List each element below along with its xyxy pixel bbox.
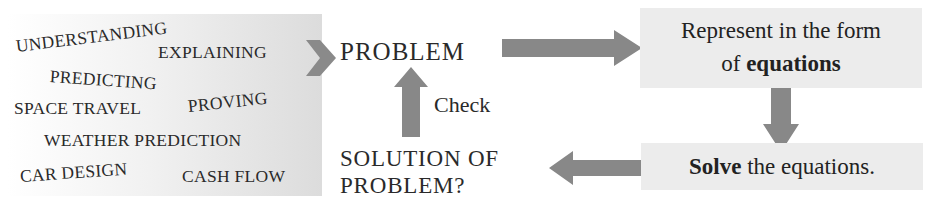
chevron-right-icon <box>306 40 336 76</box>
check-label: Check <box>434 92 490 118</box>
application-car-design: CAR DESIGN <box>19 159 128 187</box>
applications-panel: UNDERSTANDING EXPLAINING PREDICTING SPAC… <box>8 14 322 196</box>
solution-label: SOLUTION OF PROBLEM? <box>340 145 499 199</box>
arrow-left-icon <box>549 151 641 185</box>
solve-rest: the equations. <box>741 154 875 179</box>
solution-line2: PROBLEM? <box>340 172 499 199</box>
solve-bold: Solve <box>689 154 741 179</box>
problem-label: PROBLEM <box>340 38 465 66</box>
application-weather-prediction: WEATHER PREDICTION <box>44 130 241 151</box>
application-predicting: PREDICTING <box>49 66 157 94</box>
application-proving: PROVING <box>187 88 269 117</box>
arrow-right-icon <box>502 30 642 66</box>
solution-line1: SOLUTION OF <box>340 145 499 172</box>
arrow-up-icon <box>394 67 428 137</box>
application-explaining: EXPLAINING <box>158 42 267 63</box>
application-space-travel: SPACE TRAVEL <box>14 98 141 119</box>
represent-of: of <box>721 51 740 76</box>
represent-equations-bold: equations <box>746 51 841 76</box>
application-understanding: UNDERSTANDING <box>15 18 169 57</box>
represent-line2: of equations <box>640 47 922 80</box>
solve-equations-box: Solve the equations. <box>641 143 923 190</box>
represent-line1: Represent in the form <box>640 14 922 47</box>
represent-equations-box: Represent in the form of equations <box>640 8 922 88</box>
application-cash-flow: CASH FLOW <box>182 166 285 187</box>
